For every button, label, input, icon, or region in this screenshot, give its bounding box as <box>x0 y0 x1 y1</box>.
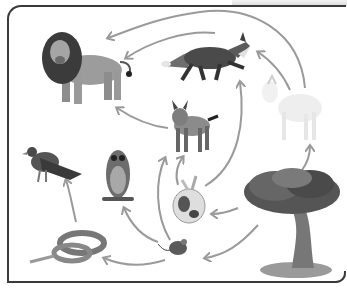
arrow-tree-to-rabbit <box>212 208 238 214</box>
mouse-illustration <box>158 239 187 255</box>
arrow-tree-to-mouse <box>205 225 258 258</box>
arrow-tree-to-goat <box>302 146 310 170</box>
fox-illustration <box>161 32 250 80</box>
arrow-lynx-to-lion <box>117 108 168 128</box>
lynx-illustration <box>172 100 218 152</box>
arrow-mouse-to-owl <box>124 208 158 242</box>
arrow-mouse-to-snake <box>104 258 165 265</box>
snake-illustration <box>30 233 104 262</box>
arrow-snake-to-eagle <box>66 180 76 222</box>
goat-illustration <box>262 76 322 140</box>
tree-illustration <box>244 168 340 278</box>
lion-illustration <box>42 32 132 104</box>
eagle-illustration <box>22 147 82 182</box>
owl-illustration <box>102 150 134 201</box>
food-web-diagram <box>0 0 347 293</box>
arrow-rabbit-to-fox <box>205 82 242 186</box>
arrow-mouse-to-lynx <box>158 158 170 240</box>
